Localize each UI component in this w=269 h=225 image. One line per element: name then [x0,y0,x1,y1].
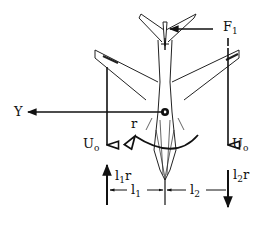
yaw-rate-label: r [131,117,137,130]
force-f1-label: F1 [223,20,238,33]
yaw-rate-arrow [135,135,198,149]
velocity-right-label: Uo [232,137,248,150]
velocity-left-label: Uo [83,137,99,150]
side-force-y-label: Y [14,105,23,118]
right-induced-label: l2r [233,168,249,181]
aircraft-icon [95,14,239,180]
aircraft-diagram: F1 Y Uo Uo r l1r l2r l1 l2 [0,0,269,225]
arm-l1-label: l1 [131,183,141,196]
left-induced-label: l1r [115,169,131,182]
arm-l2-label: l2 [190,183,200,196]
